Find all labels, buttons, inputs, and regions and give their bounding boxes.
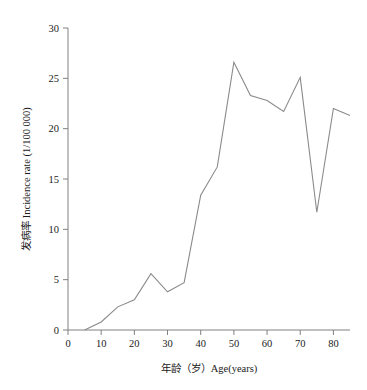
x-tick-label-group: 01020304050607080 <box>65 338 338 349</box>
y-tick-label-20: 20 <box>49 123 60 134</box>
incidence-rate-series-line <box>85 62 350 330</box>
y-tick-label-group: 051015202530 <box>49 23 60 336</box>
y-tick-label-25: 25 <box>49 73 60 84</box>
y-tick-label-10: 10 <box>49 224 60 235</box>
y-tick-label-30: 30 <box>49 23 60 34</box>
x-tick-label-50: 50 <box>229 338 240 349</box>
y-tick-label-15: 15 <box>49 174 60 185</box>
axes-group <box>68 28 350 330</box>
y-axis-title: 发病率 Incidence rate (1/100 000) <box>20 107 33 251</box>
chart-canvas: 051015202530 01020304050607080 年龄（岁）Age(… <box>0 0 367 390</box>
x-tick-label-10: 10 <box>96 338 107 349</box>
x-tick-label-40: 40 <box>195 338 206 349</box>
y-tick-label-0: 0 <box>54 325 59 336</box>
x-tick-label-60: 60 <box>262 338 273 349</box>
incidence-rate-line-chart: 051015202530 01020304050607080 年龄（岁）Age(… <box>0 0 367 390</box>
x-axis-title: 年龄（岁）Age(years) <box>161 362 258 375</box>
x-tick-label-30: 30 <box>162 338 173 349</box>
x-tick-label-0: 0 <box>65 338 70 349</box>
y-tick-group <box>63 28 68 330</box>
y-tick-label-5: 5 <box>54 274 59 285</box>
x-tick-label-70: 70 <box>295 338 306 349</box>
x-tick-label-80: 80 <box>328 338 339 349</box>
x-tick-group <box>68 330 333 335</box>
x-tick-label-20: 20 <box>129 338 140 349</box>
